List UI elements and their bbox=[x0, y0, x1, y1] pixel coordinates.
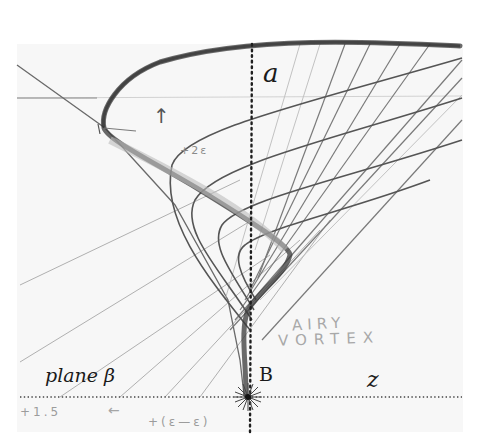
up-arrow-icon: ↑ bbox=[153, 104, 175, 128]
note-curve: +2ε bbox=[180, 144, 208, 157]
point-b-dot bbox=[245, 394, 251, 400]
axis-a-label: a bbox=[263, 58, 279, 88]
note-bottom-center: +(ε—ε) bbox=[148, 415, 210, 429]
airy-title-line2: VORTEX bbox=[278, 328, 381, 350]
note-bottom-left: +1.5 bbox=[20, 405, 61, 419]
left-arrow-icon: ← bbox=[108, 402, 125, 418]
axis-a-dotted-line bbox=[250, 44, 252, 432]
axis-z-label: z bbox=[367, 367, 379, 392]
point-b-label: B bbox=[259, 363, 273, 385]
left-envelope-line bbox=[17, 65, 244, 395]
cusp-arrow bbox=[104, 128, 136, 131]
plane-beta-label: plane β bbox=[45, 364, 115, 386]
